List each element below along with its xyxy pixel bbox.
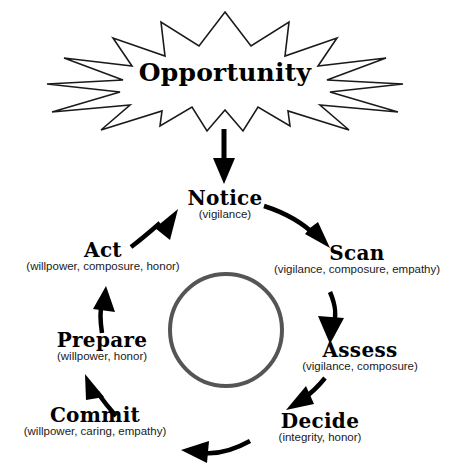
node-notice-title: Notice	[161, 188, 289, 208]
arrow-scan-to-assess	[318, 292, 344, 344]
node-prepare-traits: (willpower, honor)	[32, 351, 172, 363]
node-assess: Assess (vigilance, composure)	[277, 340, 443, 373]
node-scan-traits: (vigilance, composure, empathy)	[264, 264, 450, 276]
node-prepare-title: Prepare	[32, 330, 172, 350]
node-decide: Decide (integrity, honor)	[250, 411, 390, 444]
node-notice-traits: (vigilance)	[161, 209, 289, 221]
node-decide-traits: (integrity, honor)	[250, 432, 390, 444]
node-commit: Commit (willpower, caring, empathy)	[5, 405, 185, 438]
node-assess-traits: (vigilance, composure)	[277, 361, 443, 373]
node-notice: Notice (vigilance)	[161, 188, 289, 221]
node-scan-title: Scan	[264, 243, 450, 263]
node-decide-title: Decide	[250, 411, 390, 431]
node-act: Act (willpower, composure, honor)	[8, 240, 198, 273]
node-commit-title: Commit	[5, 405, 185, 425]
node-assess-title: Assess	[277, 340, 443, 360]
arrow-decide-to-commit	[181, 441, 250, 463]
arrow-assess-to-decide	[286, 378, 325, 410]
node-prepare: Prepare (willpower, honor)	[32, 330, 172, 363]
node-act-traits: (willpower, composure, honor)	[8, 261, 198, 273]
arrow-prepare-to-act	[93, 286, 115, 333]
node-act-title: Act	[8, 240, 198, 260]
arrow-opportunity-to-notice	[213, 129, 235, 184]
node-scan: Scan (vigilance, composure, empathy)	[264, 243, 450, 276]
center-ring	[170, 274, 282, 386]
node-commit-traits: (willpower, caring, empathy)	[5, 426, 185, 438]
opportunity-cycle-diagram: Opportunity Notice (vigilance) Scan (vig…	[0, 0, 450, 474]
opportunity-label: Opportunity	[0, 58, 450, 87]
